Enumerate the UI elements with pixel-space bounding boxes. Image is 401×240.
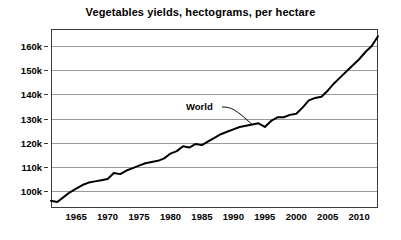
series-annotation-world: World xyxy=(186,101,213,112)
x-tick-label: 1995 xyxy=(254,211,275,222)
x-tick-label: 1970 xyxy=(97,211,118,222)
y-tick-label: 110k xyxy=(21,161,42,172)
y-tick-label: 160k xyxy=(21,40,42,51)
gridline-horizontal xyxy=(52,94,377,95)
x-tick-label: 2005 xyxy=(317,211,338,222)
gridline-horizontal xyxy=(52,70,377,71)
y-tick-label: 140k xyxy=(21,89,42,100)
y-axis: 100k110k120k130k140k150k160k xyxy=(0,29,48,208)
x-tick-label: 1985 xyxy=(191,211,212,222)
x-tick-label: 1990 xyxy=(223,211,244,222)
x-tick-label: 1980 xyxy=(160,211,181,222)
x-tick-label: 2010 xyxy=(349,211,370,222)
gridline-horizontal xyxy=(52,143,377,144)
y-tick-mark xyxy=(44,191,48,192)
y-tick-label: 130k xyxy=(21,113,42,124)
y-tick-mark xyxy=(44,143,48,144)
y-tick-label: 120k xyxy=(21,137,42,148)
plot-area xyxy=(51,29,378,208)
x-tick-label: 1975 xyxy=(128,211,149,222)
x-tick-label: 2000 xyxy=(286,211,307,222)
x-tick-label: 1965 xyxy=(66,211,87,222)
y-tick-mark xyxy=(44,46,48,47)
y-tick-mark xyxy=(44,167,48,168)
x-axis: 1965197019751980198519901995200020052010 xyxy=(0,210,401,228)
chart-container: Vegetables yields, hectograms, per hecta… xyxy=(0,0,401,240)
chart-title: Vegetables yields, hectograms, per hecta… xyxy=(0,6,401,18)
y-tick-mark xyxy=(44,119,48,120)
y-tick-label: 150k xyxy=(21,65,42,76)
y-tick-label: 100k xyxy=(21,186,42,197)
gridline-horizontal xyxy=(52,167,377,168)
y-tick-mark xyxy=(44,70,48,71)
gridline-horizontal xyxy=(52,119,377,120)
gridline-horizontal xyxy=(52,46,377,47)
y-tick-mark xyxy=(44,94,48,95)
gridline-horizontal xyxy=(52,191,377,192)
